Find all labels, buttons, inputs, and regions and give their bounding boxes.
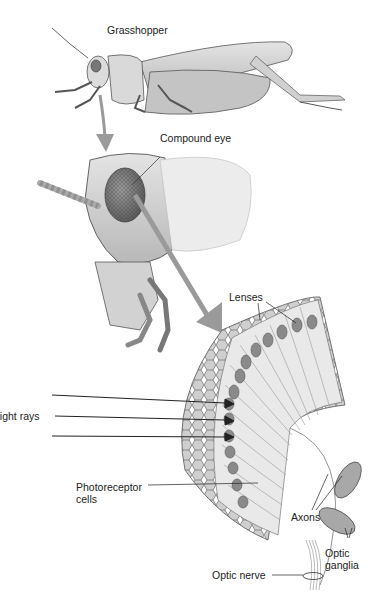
label-compound-eye: Compound eye	[160, 132, 231, 144]
label-light-rays: Light rays	[0, 410, 40, 422]
label-photoreceptor-cells-1: Photoreceptor	[76, 481, 142, 493]
arrow-to-head	[96, 95, 114, 152]
label-axons: Axons	[291, 511, 320, 523]
optic-ganglion-lower	[315, 502, 360, 539]
label-lenses: Lenses	[229, 291, 263, 303]
label-optic-ganglia-1: Optic	[325, 547, 350, 559]
label-photoreceptor-cells-2: cells	[76, 493, 97, 505]
diagram-canvas: Grasshopper Compound eye Lenses Light ra…	[0, 0, 372, 600]
label-optic-ganglia-2: ganglia	[325, 559, 359, 571]
diagram-illustration	[0, 0, 372, 600]
grasshopper-figure	[52, 28, 345, 114]
label-optic-nerve: Optic nerve	[212, 569, 266, 581]
label-grasshopper: Grasshopper	[107, 24, 168, 36]
